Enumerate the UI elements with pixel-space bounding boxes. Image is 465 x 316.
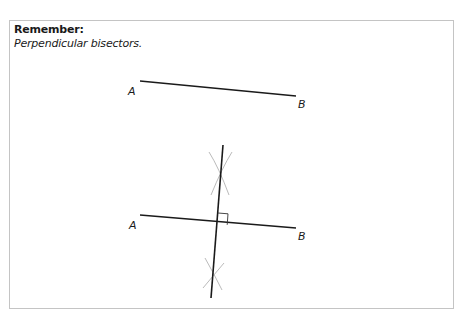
segment-ab-top xyxy=(140,81,296,96)
label-b-top: B xyxy=(298,98,306,111)
original-segment-figure: A B xyxy=(127,81,306,111)
right-angle-marker xyxy=(218,213,228,225)
bisected-segment-figure: A B xyxy=(128,145,306,298)
geometry-diagram: A B A B xyxy=(0,0,465,316)
label-b-bottom: B xyxy=(298,230,306,243)
label-a-bottom: A xyxy=(128,219,137,232)
label-a-top: A xyxy=(127,85,136,98)
